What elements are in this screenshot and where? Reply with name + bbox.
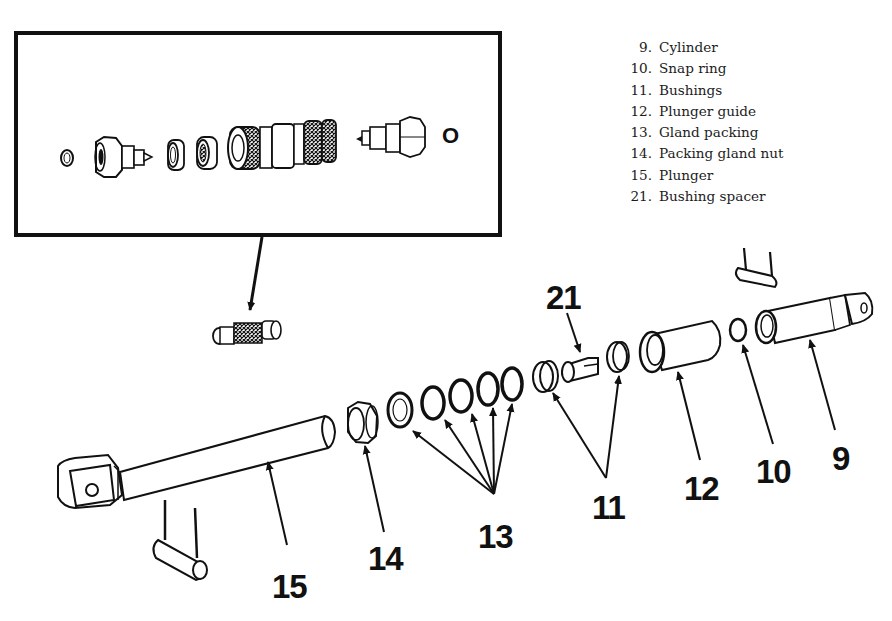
- legend-item: 21.Bushing spacer: [622, 186, 784, 207]
- legend-item: 13.Gland packing: [622, 122, 784, 143]
- inset-pointer-arrow: [250, 237, 262, 310]
- clevis-pin-left: [153, 500, 207, 580]
- callout-12: 12: [684, 470, 719, 507]
- part-9-cylinder: [756, 293, 872, 343]
- callout-10: 10: [756, 453, 791, 490]
- callout-13: 13: [478, 518, 513, 555]
- legend-item: 15.Plunger: [622, 165, 784, 186]
- part-15-plunger: [58, 416, 335, 508]
- parts-legend: 9.Cylinder 10.Snap ring 11.Bushings 12.P…: [622, 37, 784, 207]
- part-14-packing-gland-nut: [348, 402, 378, 443]
- clevis-pin-right: [736, 248, 777, 287]
- part-10-snap-ring: [730, 319, 746, 341]
- inset-bushing-1: [168, 140, 184, 170]
- legend-item: 11.Bushings: [622, 80, 784, 101]
- callout-15: 15: [272, 568, 307, 605]
- callout-14: 14: [368, 540, 404, 577]
- legend-item: 14.Packing gland nut: [622, 143, 784, 164]
- callout-11: 11: [592, 489, 626, 526]
- inset-o-ring-tag: O: [442, 123, 459, 148]
- mini-coupler: [213, 321, 281, 344]
- inset-coupler-detail: O: [16, 33, 500, 235]
- part-13-gland-packing-rings: [388, 368, 522, 427]
- inset-bushing-2: [197, 137, 217, 169]
- legend-item: 12.Plunger guide: [622, 101, 784, 122]
- legend-item: 10.Snap ring: [622, 58, 784, 79]
- part-12-plunger-guide: [640, 321, 720, 372]
- inset-coupler-body: [228, 120, 336, 169]
- legend-item: 9.Cylinder: [622, 37, 784, 58]
- part-21-bushing-spacer: [562, 358, 598, 382]
- callout-21: 21: [546, 279, 581, 316]
- callout-9: 9: [832, 440, 850, 477]
